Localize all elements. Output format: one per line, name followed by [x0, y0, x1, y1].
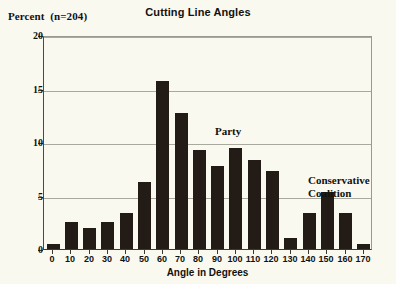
y-tick-label: 15 — [7, 84, 43, 95]
bar — [175, 113, 188, 249]
bar — [47, 244, 60, 249]
chart-screenshot: Percent (n=204) Cutting Line Angles Part… — [0, 0, 396, 284]
y-tick-label: 20 — [7, 30, 43, 41]
bar — [321, 192, 334, 249]
bar — [156, 81, 169, 249]
bar — [266, 171, 279, 249]
y-axis: 05101520 — [0, 0, 43, 284]
bar — [138, 182, 151, 249]
bars-series — [44, 37, 371, 249]
bar — [303, 213, 316, 249]
annotation-party: Party — [215, 125, 241, 138]
bar — [193, 150, 206, 250]
x-axis-title: Angle in Degrees — [43, 267, 372, 278]
bar — [357, 244, 370, 249]
annotation-conservative-coalition: Conservative Coalition — [308, 174, 370, 200]
bar — [101, 222, 114, 249]
plot-area: Party Conservative Coalition — [43, 36, 372, 250]
bar — [120, 213, 133, 249]
x-tick-label: 170 — [350, 254, 376, 264]
bar — [65, 222, 78, 249]
x-axis-labels: 0102030405060708090100110120130140150160… — [43, 254, 372, 268]
y-tick-label: 10 — [7, 137, 43, 148]
bar — [211, 166, 224, 249]
y-tick-label: 5 — [7, 191, 43, 202]
bar — [248, 160, 261, 249]
chart-title: Cutting Line Angles — [0, 6, 396, 18]
bar — [284, 238, 297, 249]
bar — [229, 148, 242, 249]
bar — [83, 228, 96, 249]
bar — [339, 213, 352, 249]
y-tick-label: 0 — [7, 244, 43, 255]
